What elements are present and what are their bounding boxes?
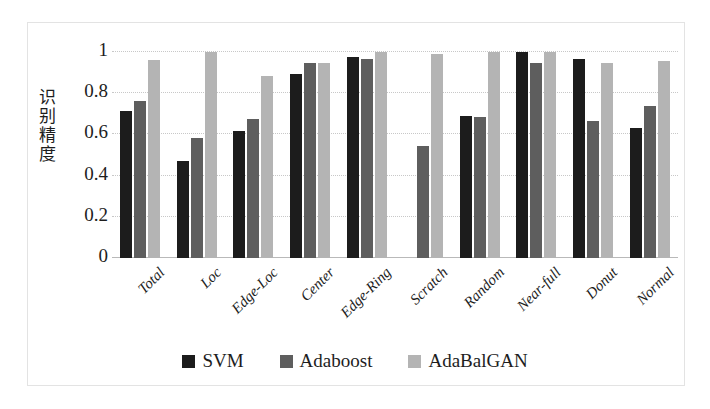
legend-item[interactable]: AdaBalGAN [408,350,527,372]
legend-item[interactable]: SVM [182,350,243,372]
legend-swatch-icon [182,355,195,368]
bar-group [395,52,452,258]
bar[interactable] [516,52,528,258]
bar[interactable] [658,61,670,258]
y-axis-label-char: 识 [34,88,60,107]
legend-item[interactable]: Adaboost [280,350,373,372]
legend-label: SVM [202,350,243,372]
bar[interactable] [431,54,443,258]
bar[interactable] [304,63,316,258]
x-axis-tick-labels: TotalLocEdge-LocCenterEdge-RingScratchRa… [112,258,678,338]
bar-group [452,52,509,258]
bar[interactable] [573,59,585,258]
bar[interactable] [474,117,486,258]
bar[interactable] [544,52,556,258]
bar-group [169,52,226,258]
bar[interactable] [205,52,217,258]
bar[interactable] [488,52,500,258]
chart-legend: SVMAdaboostAdaBalGAN [0,350,710,372]
y-axis-tick-label: 0.2 [60,204,108,226]
y-axis-tick-labels: 00.20.40.60.81 [60,0,108,409]
y-axis-label-char: 精 [34,126,60,145]
y-axis-tick-label: 0.8 [60,80,108,102]
bar[interactable] [587,121,599,258]
bar[interactable] [148,60,160,258]
y-axis-tick-label: 0.4 [60,163,108,185]
x-axis-tick-label: Near-full [241,264,565,409]
bar-group [338,52,395,258]
bar[interactable] [120,111,132,258]
bar[interactable] [177,161,189,258]
legend-swatch-icon [408,355,421,368]
y-axis-tick-label: 0 [60,245,108,267]
chart-figure: 识别精度 00.20.40.60.81 TotalLocEdge-LocCent… [0,0,710,409]
bar[interactable] [375,52,387,258]
bar[interactable] [233,131,245,258]
bar[interactable] [460,116,472,258]
legend-swatch-icon [280,355,293,368]
bar[interactable] [261,76,273,258]
y-axis-label: 识别精度 [34,88,60,164]
y-axis-label-char: 别 [34,107,60,126]
x-axis-tick-label: Total [125,264,168,307]
bar[interactable] [630,128,642,258]
bar-group [565,52,622,258]
bar[interactable] [191,138,203,259]
bar[interactable] [290,74,302,258]
bar[interactable] [134,101,146,258]
bar-group [508,52,565,258]
bar[interactable] [644,106,656,258]
y-axis-tick-label: 0.6 [60,121,108,143]
bar-group [225,52,282,258]
bar[interactable] [530,63,542,258]
legend-label: AdaBalGAN [428,350,527,372]
legend-label: Adaboost [300,350,373,372]
bar-group [621,52,678,258]
bar[interactable] [601,63,613,258]
bar-group [112,52,169,258]
y-axis-label-char: 度 [34,145,60,164]
bar[interactable] [361,59,373,258]
bar[interactable] [417,146,429,258]
bar-group [282,52,339,258]
bar[interactable] [347,57,359,258]
plot-area [112,52,678,258]
y-axis-tick-label: 1 [60,39,108,61]
bar[interactable] [247,119,259,258]
bar[interactable] [318,63,330,258]
